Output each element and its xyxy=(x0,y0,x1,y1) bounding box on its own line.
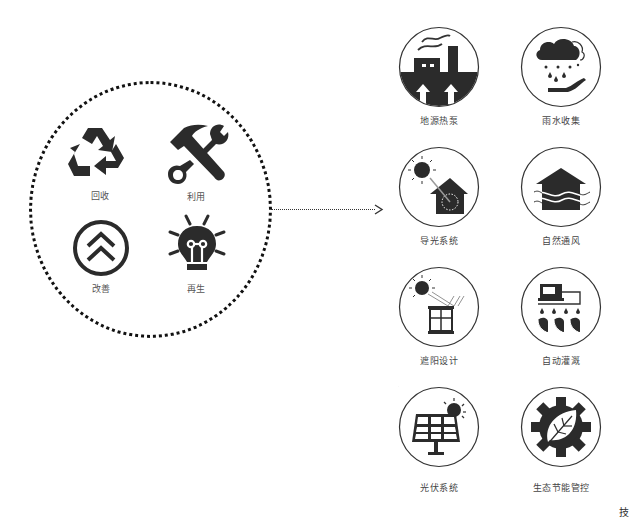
dotted-group-circle xyxy=(29,81,272,338)
grid-item-label: 雨水收集 xyxy=(516,114,606,127)
connector-line xyxy=(271,209,375,210)
left-item-label: 改善 xyxy=(71,282,131,295)
rain-collection-icon xyxy=(520,26,602,108)
arrow-right-icon xyxy=(372,203,385,216)
lightbulb-icon xyxy=(166,212,228,278)
grid-item-label: 地源热泵 xyxy=(394,114,484,127)
solar-panel-icon xyxy=(398,386,480,468)
left-item-label: 回收 xyxy=(70,189,130,202)
hammer-wrench-icon xyxy=(166,122,230,186)
light-guide-house-icon xyxy=(398,146,480,228)
grid-item-label: 自然通风 xyxy=(516,234,606,247)
auto-irrigation-icon xyxy=(520,266,602,348)
grid-item-label: 导光系统 xyxy=(394,234,484,247)
grid-item-label: 遮阳设计 xyxy=(394,354,484,367)
grid-item-label: 自动灌溉 xyxy=(516,354,606,367)
left-item-label: 再生 xyxy=(166,282,226,295)
grid-item-label: 光伏系统 xyxy=(394,481,484,494)
corner-text: 技 xyxy=(619,504,629,519)
left-item-label: 利用 xyxy=(166,190,226,203)
sunshade-window-icon xyxy=(398,266,480,348)
natural-ventilation-house-icon xyxy=(520,146,602,228)
recycle-icon xyxy=(66,124,134,186)
geothermal-factory-icon xyxy=(398,26,480,108)
double-chevron-up-icon xyxy=(71,218,131,278)
eco-gear-leaf-icon xyxy=(520,386,602,468)
grid-item-label: 生态节能管控 xyxy=(516,481,606,494)
